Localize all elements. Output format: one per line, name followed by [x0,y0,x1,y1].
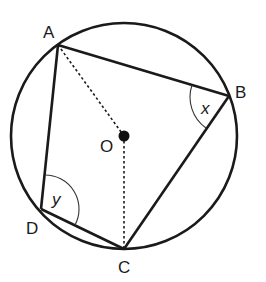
segment-DA [41,45,58,209]
label-A: A [43,23,55,42]
label-O: O [100,137,113,156]
label-D: D [26,219,38,238]
diagram-canvas: A B C D O x y [0,0,266,282]
segment-AB [58,45,229,96]
segment-BC [124,96,229,249]
center-point-O [119,131,130,142]
segment-CD [41,209,124,249]
angle-arc-y [45,175,79,225]
label-B: B [235,83,246,102]
angle-label-x: x [200,99,210,118]
label-C: C [118,258,130,277]
geometry-diagram: A B C D O x y [0,0,266,282]
angle-label-y: y [51,190,62,209]
radius-OA [58,45,124,136]
